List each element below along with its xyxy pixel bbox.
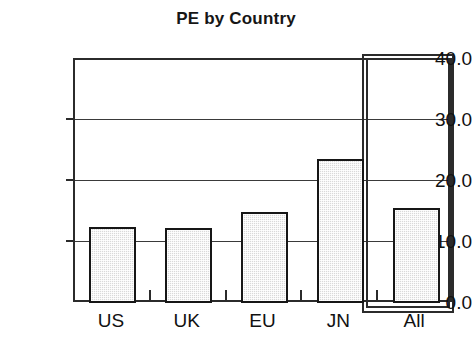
- y-tick-label-30.0: 30.0: [408, 110, 472, 129]
- bar-uk[interactable]: [165, 228, 212, 303]
- bar-jn[interactable]: [317, 159, 364, 303]
- x-tick-label-us: US: [73, 311, 149, 330]
- x-tick-mark-3: [376, 290, 378, 302]
- y-tick-mark-30.0: [66, 118, 73, 120]
- chart-title: PE by Country: [0, 9, 472, 29]
- bar-eu[interactable]: [241, 212, 288, 303]
- gridline-20.0: [75, 180, 450, 181]
- y-tick-mark-10.0: [66, 240, 73, 242]
- x-tick-label-uk: UK: [149, 311, 225, 330]
- bar-us[interactable]: [89, 227, 136, 303]
- y-axis: [0, 0, 68, 357]
- x-tick-mark-2: [300, 290, 302, 302]
- x-tick-label-eu: EU: [225, 311, 301, 330]
- y-tick-label-20.0: 20.0: [408, 171, 472, 190]
- y-tick-mark-20.0: [66, 179, 73, 181]
- y-tick-label-40.0: 40.0: [408, 49, 472, 68]
- gridline-30.0: [75, 119, 450, 120]
- bar-all[interactable]: [393, 208, 440, 303]
- x-tick-label-jn: JN: [300, 311, 376, 330]
- x-tick-mark-0: [149, 290, 151, 302]
- bar-chart-figure: PE by Country 0.010.020.030.040.0USUKEUJ…: [0, 0, 472, 357]
- x-tick-label-all: All: [376, 311, 452, 330]
- x-tick-mark-1: [225, 290, 227, 302]
